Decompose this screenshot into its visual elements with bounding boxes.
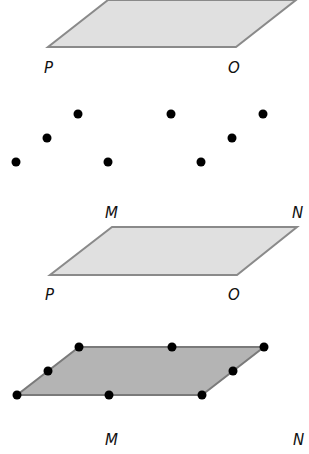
dot <box>229 367 238 376</box>
dots-mn-top: M N <box>12 110 304 223</box>
parallelogram-light-2 <box>50 227 297 275</box>
label-p-2: P <box>45 286 55 304</box>
dot <box>167 110 176 119</box>
dot <box>168 343 177 352</box>
label-o-1: O <box>228 59 240 77</box>
label-m-2: M <box>105 431 118 449</box>
dot <box>44 367 53 376</box>
plane-mn-filled: M N <box>13 343 305 450</box>
dot <box>260 343 269 352</box>
parallelogram-light-1 <box>48 0 296 47</box>
label-n-2: N <box>293 431 304 449</box>
geometry-diagram: P O M N P O M N <box>0 0 309 454</box>
dot <box>197 158 206 167</box>
dot <box>74 110 83 119</box>
label-m-1: M <box>105 204 118 222</box>
plane-po-bottom: P O <box>45 227 297 304</box>
dot <box>104 158 113 167</box>
label-p-1: P <box>44 59 54 77</box>
dot <box>259 110 268 119</box>
dot <box>105 391 114 400</box>
parallelogram-dark <box>17 347 264 395</box>
dot <box>12 158 21 167</box>
dot <box>198 391 207 400</box>
plane-po-top: P O <box>44 0 296 77</box>
dot <box>13 391 22 400</box>
dot <box>43 134 52 143</box>
dot <box>75 343 84 352</box>
label-o-2: O <box>228 286 240 304</box>
label-n-1: N <box>292 204 303 222</box>
dot <box>228 134 237 143</box>
